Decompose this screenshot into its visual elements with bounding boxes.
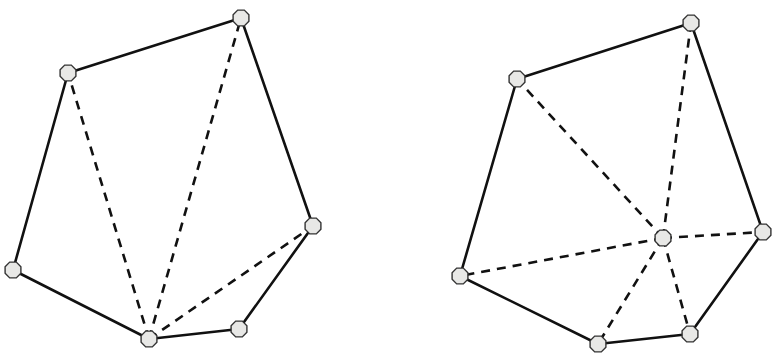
dashed-spoke [460,238,663,276]
vertex-node [655,230,671,246]
dashed-spoke [517,79,663,238]
vertex-node [755,224,771,240]
polygon-edge [691,23,763,232]
vertex-node [305,218,321,234]
triangulation-figure [0,0,775,363]
dashed-spoke [663,23,691,238]
vertex-node [60,65,76,81]
polygon-edge [239,226,313,329]
polygon-edge [241,18,313,226]
dashed-diagonals [68,18,313,339]
vertex-node [5,262,21,278]
dashed-spoke [598,238,663,344]
polygon-edge [68,18,241,73]
vertex-node [683,15,699,31]
dashed-diagonal [68,73,149,339]
polygon-vertices [5,10,321,347]
vertex-node [682,326,698,342]
vertex-node [141,331,157,347]
star-triangulation-polygon [452,15,771,352]
polygon-edges [460,23,763,344]
dashed-diagonal [149,226,313,339]
vertex-node [233,10,249,26]
polygon-edge [460,276,598,344]
polygon-edge [517,23,691,79]
vertex-node [509,71,525,87]
polygon-edge [690,232,763,334]
polygon-edge [13,270,149,339]
polygon-edge [460,79,517,276]
polygon-vertices [452,15,771,352]
dashed-diagonal [149,18,241,339]
vertex-node [231,321,247,337]
dashed-spoke [663,238,690,334]
dashed-spoke [663,232,763,238]
vertex-node [452,268,468,284]
polygon-edge [13,73,68,270]
polygon-edge [149,329,239,339]
vertex-node [590,336,606,352]
fan-triangulation-polygon [5,10,321,347]
polygon-edge [598,334,690,344]
